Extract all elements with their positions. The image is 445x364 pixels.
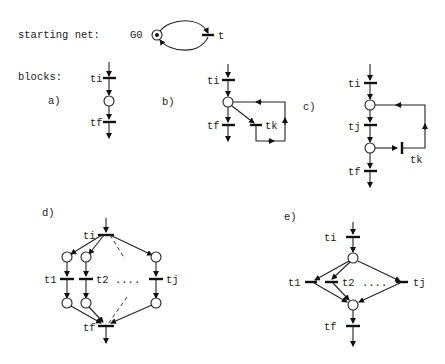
place: [348, 300, 358, 310]
place-g0-label: G0: [130, 29, 143, 41]
tj-label: tj: [348, 121, 361, 133]
place: [223, 97, 233, 107]
t2-label: t2: [342, 277, 355, 289]
t1-label: t1: [288, 277, 301, 289]
blocks-label: blocks:: [18, 71, 62, 83]
petri-net-figure: starting net: G0 t blocks: a) ti tf b) t…: [0, 0, 445, 364]
block-c: c) ti tj tk tf: [303, 64, 425, 187]
tf-label: tf: [207, 120, 220, 132]
place: [81, 298, 91, 308]
block-e-tag: e): [284, 211, 297, 223]
ellipsis: ....: [115, 274, 140, 286]
t1-label: t1: [44, 274, 57, 286]
place: [104, 96, 114, 106]
tf-label: tf: [83, 322, 96, 334]
starting-net: G0 t: [130, 21, 224, 50]
place: [151, 298, 161, 308]
tf-label: tf: [90, 117, 103, 129]
tf-label: tf: [348, 166, 361, 178]
tk-label: tk: [265, 120, 278, 132]
starting-net-label: starting net:: [18, 29, 100, 41]
block-c-tag: c): [303, 101, 316, 113]
place: [365, 143, 375, 153]
token-icon: [155, 33, 159, 37]
block-b-tag: b): [162, 96, 175, 108]
transition-t-label: t: [218, 30, 224, 42]
tj-label: tj: [413, 277, 426, 289]
tj-label: tj: [166, 274, 179, 286]
block-b: b) ti tf tk: [162, 64, 285, 141]
ellipsis: ....: [362, 277, 387, 289]
ti-label: ti: [90, 73, 103, 85]
place: [151, 252, 161, 262]
place: [348, 253, 358, 263]
tk-label: tk: [410, 154, 423, 166]
block-d-tag: d): [42, 207, 55, 219]
ti-label: ti: [207, 75, 220, 87]
place: [62, 298, 72, 308]
block-d: d) ti t1 t2 .... tj tf: [42, 207, 179, 343]
tf-label: tf: [324, 321, 337, 333]
t2-label: t2: [96, 274, 109, 286]
place: [81, 252, 91, 262]
ti-label: ti: [348, 78, 361, 90]
ti-label: ti: [324, 232, 337, 244]
place: [62, 252, 72, 262]
place: [365, 100, 375, 110]
block-a-tag: a): [48, 95, 61, 107]
block-e: e) ti t1 t2 .... tj tf: [284, 211, 426, 346]
